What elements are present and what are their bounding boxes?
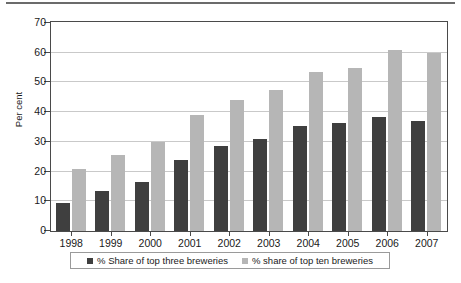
bar	[135, 182, 149, 231]
y-tick-label: 0	[16, 225, 46, 235]
bar	[214, 146, 228, 231]
chart-figure: Per cent 010203040506070 199819992000200…	[0, 0, 461, 283]
plot-area	[50, 21, 448, 232]
legend-label: % Share of top three breweries	[97, 255, 228, 266]
bar-group	[51, 22, 91, 231]
bar-group	[407, 22, 447, 231]
x-tick-mark	[190, 232, 191, 236]
y-tick-label: 60	[16, 47, 46, 57]
y-tick-label: 10	[16, 195, 46, 205]
x-tick-label: 2007	[404, 237, 450, 249]
bar-group	[367, 22, 407, 231]
bar	[309, 72, 323, 231]
x-tick-mark	[387, 232, 388, 236]
x-tick-mark	[308, 232, 309, 236]
bar	[269, 90, 283, 231]
x-tick-mark	[71, 232, 72, 236]
bar	[293, 126, 307, 231]
y-tick-label: 30	[16, 136, 46, 146]
x-tick-mark	[269, 232, 270, 236]
bar-series-layer	[51, 22, 447, 231]
bar	[190, 115, 204, 231]
x-tick-mark	[348, 232, 349, 236]
bar-group	[91, 22, 131, 231]
y-tick-label: 20	[16, 166, 46, 176]
bar-group	[288, 22, 328, 231]
x-tick-mark	[111, 232, 112, 236]
bar	[388, 50, 402, 231]
bar	[411, 121, 425, 231]
y-tick-label: 70	[16, 17, 46, 27]
bar	[427, 53, 441, 231]
bar-group	[249, 22, 289, 231]
bar-group	[170, 22, 210, 231]
y-tick-label: 40	[16, 106, 46, 116]
bar-group	[328, 22, 368, 231]
bar-group	[209, 22, 249, 231]
header-divider	[6, 2, 455, 4]
bar	[72, 169, 86, 231]
bar	[151, 142, 165, 231]
x-tick-mark	[427, 232, 428, 236]
legend-item: % share of top ten breweries	[242, 255, 373, 266]
chart-legend: % Share of top three breweries % share o…	[70, 252, 390, 269]
bar	[111, 155, 125, 231]
legend-item: % Share of top three breweries	[87, 255, 228, 266]
x-tick-mark	[229, 232, 230, 236]
bar-group	[130, 22, 170, 231]
legend-swatch-icon	[242, 258, 248, 264]
bar	[230, 100, 244, 231]
bar	[56, 203, 70, 231]
legend-label: % share of top ten breweries	[252, 255, 373, 266]
bar	[348, 68, 362, 231]
x-tick-mark	[150, 232, 151, 236]
legend-swatch-icon	[87, 258, 93, 264]
bar	[174, 160, 188, 231]
y-tick-label: 50	[16, 76, 46, 86]
bar	[372, 117, 386, 231]
bar	[253, 139, 267, 231]
bar	[95, 191, 109, 231]
bar	[332, 123, 346, 231]
